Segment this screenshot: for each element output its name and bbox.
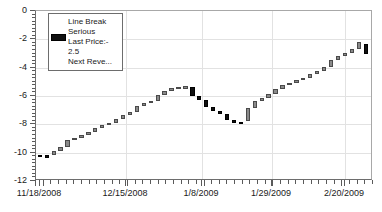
x-tick-minor [66, 180, 67, 184]
line-break-block [169, 88, 173, 91]
line-break-block [45, 155, 49, 158]
x-tick-minor [280, 180, 281, 184]
x-tick-minor [334, 180, 335, 184]
x-axis-label: 2/20/2009 [324, 188, 364, 198]
line-break-block [176, 87, 180, 90]
last-price-swatch-icon [51, 34, 66, 41]
line-break-block [100, 125, 104, 128]
x-tick-minor [150, 180, 151, 184]
chart-root: 0-2-4-6-8-10-12 11/18/200812/15/20081/8/… [0, 0, 382, 212]
gridline-vertical [272, 11, 273, 179]
x-tick-minor [58, 180, 59, 184]
line-break-block [128, 112, 132, 115]
line-break-block [218, 111, 222, 114]
x-tick-minor [357, 180, 358, 184]
x-tick-major [204, 180, 205, 186]
x-tick-minor [188, 180, 189, 184]
x-tick-minor [158, 180, 159, 184]
line-break-block [280, 85, 284, 89]
x-tick-minor [81, 180, 82, 184]
line-break-block [329, 60, 333, 67]
x-tick-minor [318, 180, 319, 184]
line-break-block [183, 86, 187, 89]
x-tick-minor [349, 180, 350, 184]
x-tick-minor [242, 180, 243, 184]
x-tick-minor [96, 180, 97, 184]
line-break-block [322, 67, 326, 71]
line-break-block [107, 123, 111, 126]
x-tick-major [272, 180, 273, 186]
x-tick-minor [265, 180, 266, 184]
line-break-block [315, 71, 319, 74]
x-tick-minor [326, 180, 327, 184]
line-break-block [336, 56, 340, 60]
x-tick-major [43, 180, 44, 186]
line-break-block [156, 95, 160, 101]
gridline-horizontal [36, 153, 371, 154]
x-tick-major [344, 180, 345, 186]
x-tick-minor [211, 180, 212, 184]
x-axis-label: 1/29/2009 [251, 188, 291, 198]
x-tick-minor [89, 180, 90, 184]
x-tick-minor [249, 180, 250, 184]
x-tick-minor [181, 180, 182, 184]
line-break-block [260, 98, 264, 101]
line-break-block [162, 91, 166, 95]
line-break-block [211, 107, 215, 111]
x-tick-minor [135, 180, 136, 184]
x-tick-minor [364, 180, 365, 184]
line-break-block [86, 132, 90, 135]
chart-legend: Line Break Serious Last Price:- 2.5 Next… [48, 13, 123, 71]
line-break-block [114, 119, 118, 123]
line-break-block [72, 138, 76, 141]
x-tick-minor [104, 180, 105, 184]
y-axis-label: -8 [19, 118, 27, 128]
legend-line-1: Line Break [68, 17, 119, 27]
gridline-horizontal [36, 96, 371, 97]
line-break-block [93, 128, 97, 132]
line-break-block [357, 42, 361, 49]
line-break-block [301, 78, 305, 81]
y-axis-label: 0 [22, 5, 27, 15]
x-tick-minor [196, 180, 197, 184]
y-axis-label: -6 [19, 90, 27, 100]
line-break-block [266, 94, 270, 98]
line-break-block [294, 80, 298, 83]
legend-swatch-cell [51, 17, 68, 41]
line-break-block [197, 96, 201, 100]
x-axis-label: 12/15/2008 [102, 188, 147, 198]
x-tick-minor [142, 180, 143, 184]
line-break-block [79, 135, 83, 138]
gridline-vertical [126, 11, 127, 179]
line-break-block [135, 106, 139, 112]
x-axis: 11/18/200812/15/20081/8/20091/29/20092/2… [0, 180, 382, 212]
x-tick-minor [112, 180, 113, 184]
x-axis-label: 11/18/2008 [17, 188, 61, 198]
x-tick-major [39, 180, 40, 186]
x-tick-major [201, 180, 202, 186]
line-break-block [246, 108, 250, 121]
line-break-block [350, 49, 354, 53]
x-axis-label: 1/8/2009 [183, 188, 218, 198]
x-tick-major [341, 180, 342, 186]
line-break-block [190, 87, 194, 96]
line-break-block [52, 151, 56, 155]
gridline-vertical [345, 11, 346, 179]
line-break-block [239, 122, 243, 125]
line-break-block [121, 115, 125, 119]
y-axis-label: -4 [19, 62, 27, 72]
x-tick-minor [50, 180, 51, 184]
line-break-block [308, 74, 312, 78]
y-axis-label: -10 [14, 147, 27, 157]
line-break-block [204, 100, 208, 108]
legend-text: Line Break Serious Last Price:- 2.5 Next… [68, 17, 119, 67]
x-tick-minor [311, 180, 312, 184]
line-break-block [58, 147, 62, 151]
x-tick-minor [73, 180, 74, 184]
x-tick-minor [219, 180, 220, 184]
line-break-block [38, 155, 42, 158]
legend-line-3: Last Price:- [68, 37, 119, 47]
gridline-vertical [202, 11, 203, 179]
y-axis-label: -2 [19, 33, 27, 43]
x-tick-minor [257, 180, 258, 184]
